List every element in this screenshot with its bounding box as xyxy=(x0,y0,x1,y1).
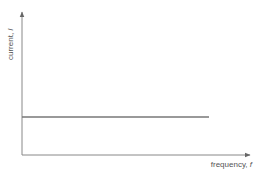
chart: current, I frequency, f xyxy=(0,0,261,179)
x-axis-label: frequency, f xyxy=(211,160,253,169)
y-axis-label: current, I xyxy=(6,28,15,60)
